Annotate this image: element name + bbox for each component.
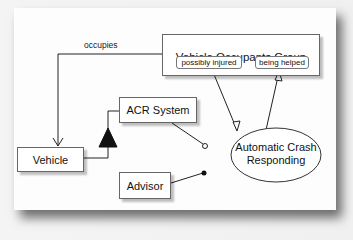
hollow-arrowhead-icon bbox=[233, 121, 240, 131]
state-being-helped[interactable]: being helped bbox=[255, 56, 309, 69]
acr-usecase-connector bbox=[172, 123, 203, 144]
occupies-label: occupies bbox=[84, 40, 118, 50]
injured-usecase-connector bbox=[213, 72, 237, 130]
use-case-line1: Automatic Crash bbox=[231, 141, 321, 154]
vehicle-occupants-group-box[interactable]: Vehicle Occupants Group bbox=[162, 34, 320, 76]
filled-triangle-icon bbox=[99, 128, 117, 147]
state-possibly-injured[interactable]: possibly injured bbox=[176, 56, 242, 69]
hollow-circle-icon bbox=[203, 144, 208, 149]
filled-circle-icon bbox=[202, 171, 207, 176]
acr-system-box[interactable]: ACR System bbox=[119, 97, 197, 123]
use-case-label: Automatic Crash Responding bbox=[231, 141, 321, 167]
advisor-box[interactable]: Advisor bbox=[119, 172, 171, 199]
vehicle-acr-connector bbox=[84, 111, 119, 158]
advisor-usecase-connector bbox=[171, 173, 203, 183]
use-case-line2: Responding bbox=[231, 154, 321, 167]
vehicle-box[interactable]: Vehicle bbox=[17, 147, 84, 172]
